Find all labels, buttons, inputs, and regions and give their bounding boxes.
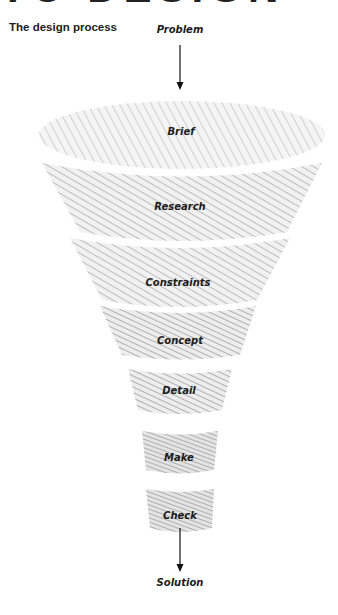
stage-label: Brief <box>167 126 194 137</box>
funnel-diagram <box>0 0 338 615</box>
stage-label: Check <box>163 510 197 521</box>
problem-arrow-icon <box>177 45 184 90</box>
stage-label: Constraints <box>145 277 210 288</box>
stage-concept-band <box>100 306 256 360</box>
stage-label: Concept <box>157 335 203 346</box>
input-label: Problem <box>157 24 204 35</box>
stage-constraints-band <box>70 238 290 307</box>
solution-arrow-icon <box>177 528 184 572</box>
stage-label: Research <box>154 201 205 212</box>
output-label: Solution <box>157 577 204 588</box>
stage-label: Make <box>164 452 194 463</box>
stage-label: Detail <box>162 385 195 396</box>
